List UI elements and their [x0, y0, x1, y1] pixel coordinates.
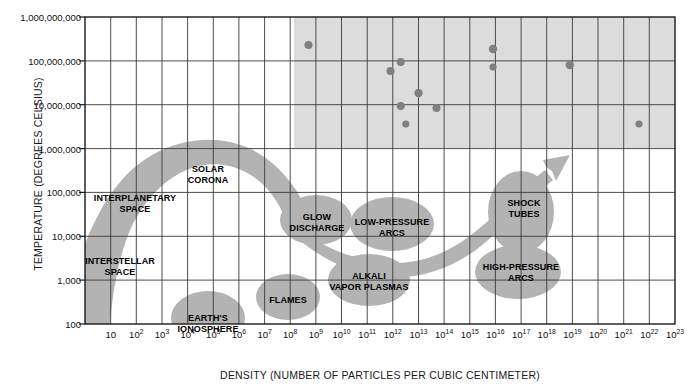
x-tick-label: 104: [180, 329, 194, 340]
y-axis-title: TEMPERATURE (DEGREES CELSIUS): [32, 44, 44, 304]
x-axis-labels: 1010210310410510610710810910101011101210…: [0, 0, 690, 388]
plasma-regime-chart: 1,000,000,000 100,000,000 10,000,000 1,0…: [0, 0, 690, 388]
x-tick-label: 108: [283, 329, 297, 340]
x-tick-label: 106: [232, 329, 246, 340]
x-tick-label: 103: [155, 329, 169, 340]
x-tick-label: 1018: [538, 329, 556, 340]
x-tick-label: 1016: [486, 329, 504, 340]
x-tick-label: 1017: [512, 329, 530, 340]
x-axis-title: DENSITY (NUMBER OF PARTICLES PER CUBIC C…: [85, 369, 675, 381]
x-tick-label: 1015: [461, 329, 479, 340]
x-tick-label: 1020: [589, 329, 607, 340]
x-tick-label: 107: [257, 329, 271, 340]
x-tick-label: 1011: [358, 329, 376, 340]
x-tick-label: 1019: [563, 329, 581, 340]
x-tick-label: 10: [105, 329, 116, 340]
x-tick-label: 105: [206, 329, 220, 340]
x-tick-label: 1014: [435, 329, 453, 340]
x-tick-label: 1021: [615, 329, 633, 340]
x-tick-label: 109: [309, 329, 323, 340]
x-tick-label: 1010: [332, 329, 350, 340]
x-tick-label: 1023: [666, 329, 684, 340]
x-tick-label: 1012: [384, 329, 402, 340]
x-tick-label: 102: [129, 329, 143, 340]
x-tick-label: 1013: [409, 329, 427, 340]
x-tick-label: 1022: [640, 329, 658, 340]
